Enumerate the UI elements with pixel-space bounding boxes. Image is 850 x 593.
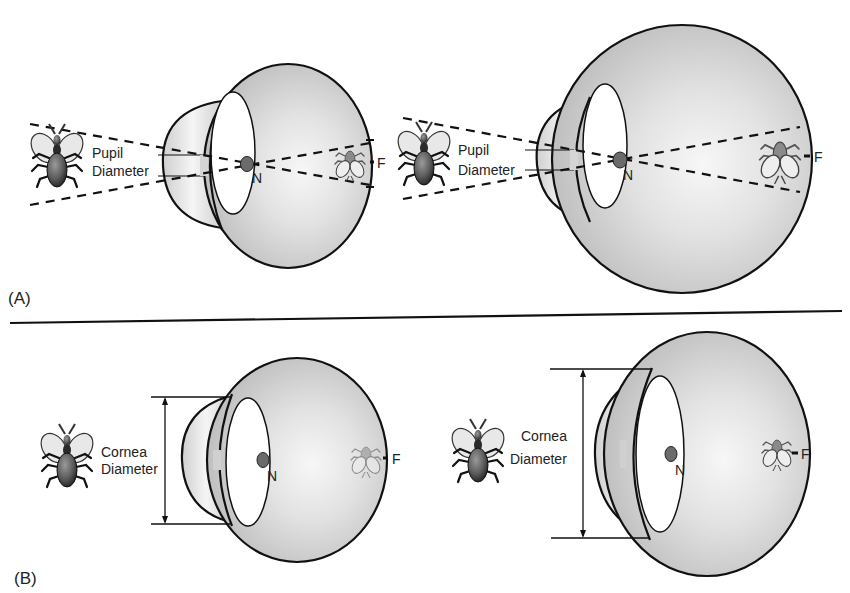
pupil-label-2: Diameter	[92, 163, 149, 179]
eye-small-pupil: Pupil Diameter N F	[26, 64, 386, 268]
panel-divider	[10, 311, 842, 323]
panel-label-b: (B)	[14, 569, 37, 588]
cornea-label-1: Cornea	[101, 444, 147, 460]
nodal-point-label: N	[623, 167, 633, 183]
eye-small-cornea: Cornea Diameter N F	[36, 358, 401, 562]
panel-label-a: (A)	[8, 289, 31, 308]
bug-object-icon	[447, 419, 509, 482]
focal-point-label: F	[392, 451, 401, 467]
eye-large-cornea: Cornea Diameter N F	[447, 332, 810, 576]
nodal-point-label: N	[267, 468, 277, 484]
cornea-label-2: Diameter	[101, 461, 158, 477]
nodal-point-dot	[665, 447, 677, 462]
bug-object-icon	[393, 122, 455, 185]
focal-point-label: F	[377, 155, 386, 171]
pupil-label-1: Pupil	[92, 145, 123, 161]
nodal-point-label: N	[252, 170, 262, 186]
lens-outline	[583, 84, 627, 208]
cornea-label-2: Diameter	[510, 451, 567, 467]
eye-large-pupil: Pupil Diameter N F	[393, 25, 823, 293]
panel-a: Pupil Diameter N F Pupil Dia	[8, 25, 823, 308]
nodal-point-label: N	[675, 462, 685, 478]
cornea-label-1: Cornea	[521, 428, 567, 444]
pupil-label-1: Pupil	[458, 142, 489, 158]
eye-optics-figure: Pupil Diameter N F Pupil Dia	[0, 0, 850, 593]
focal-point-label: F	[814, 149, 823, 165]
nodal-point-dot	[257, 453, 269, 468]
nodal-point-dot	[613, 152, 627, 168]
focal-point-label: F	[801, 446, 810, 462]
pupil-label-2: Diameter	[458, 162, 515, 178]
bug-object-icon	[36, 424, 98, 487]
panel-b: Cornea Diameter N F Cornea Dia	[14, 332, 810, 588]
lens-outline	[211, 92, 255, 214]
